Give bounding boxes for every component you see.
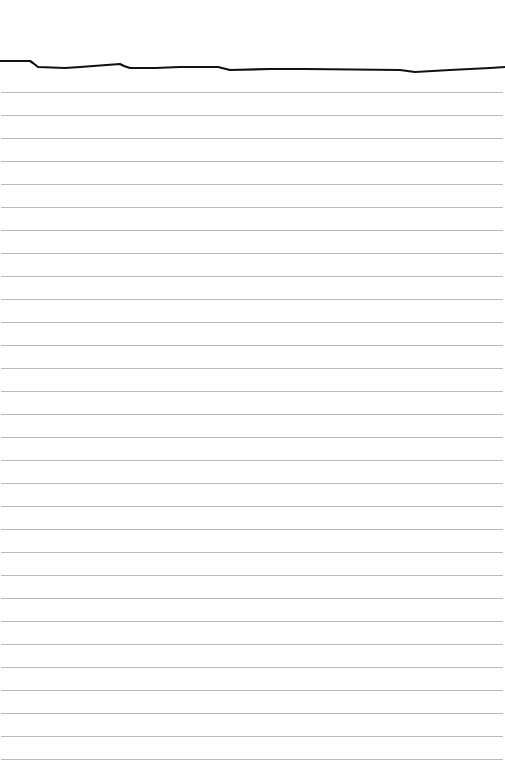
- hand-drawn-line: [0, 0, 505, 783]
- lined-paper: [0, 0, 505, 783]
